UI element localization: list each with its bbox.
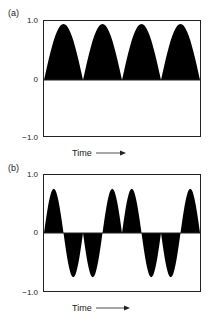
panel-b-time-arrow-icon: [96, 306, 130, 311]
panel-a-plot: [43, 21, 201, 156]
panel-a-waveform: [44, 24, 200, 80]
chart-canvas: [0, 0, 210, 321]
panel-b-plot: [43, 175, 201, 311]
panel-a-time-arrow-icon: [96, 151, 126, 156]
